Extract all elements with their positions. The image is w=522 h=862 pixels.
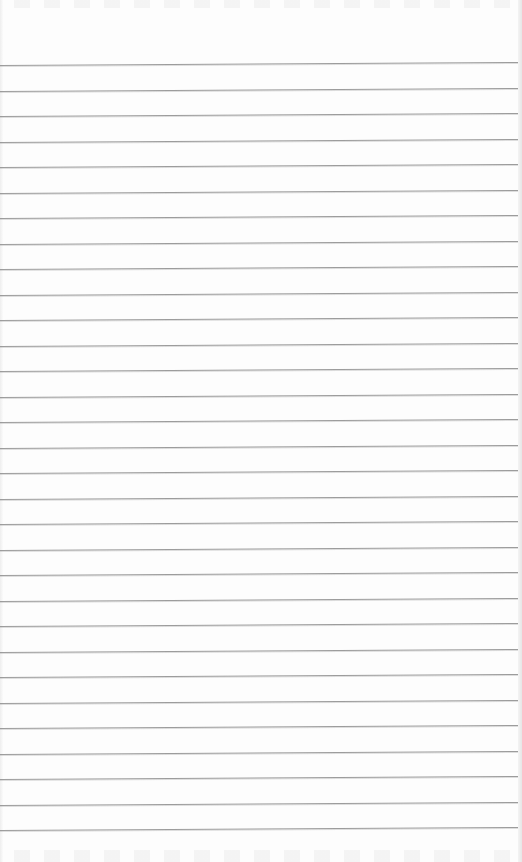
ruled-paper-sheet [0,0,522,862]
ruled-line [0,496,519,500]
ruled-line [0,649,519,653]
ruled-line [0,445,519,449]
ruled-line [0,725,519,729]
ruled-line [0,751,519,755]
ruled-line [0,88,519,92]
ruled-line [0,674,519,678]
ruled-line [0,113,519,117]
ruled-line [0,215,519,219]
ruled-line [0,419,519,423]
ruled-line [0,190,519,194]
ruled-line [0,572,519,576]
ruled-line [0,827,519,831]
ruled-line [0,343,519,347]
ruled-line [0,598,519,602]
ruled-line [0,266,519,270]
scan-ghost-bottom-margin [0,850,522,862]
ruled-line [0,623,519,627]
ruled-line [0,368,519,372]
ruled-line [0,62,519,66]
ruled-line [0,394,519,398]
ruled-line [0,241,519,245]
ruled-line [0,802,519,806]
ruled-line [0,470,519,474]
ruled-lines [0,0,522,862]
ruled-line [0,521,519,525]
ruled-line [0,700,519,704]
ruled-line [0,292,519,296]
ruled-line [0,776,519,780]
ruled-line [0,164,519,168]
ruled-line [0,139,519,143]
ruled-line [0,547,519,551]
paper-right-edge-shadow [518,0,522,862]
ruled-line [0,317,519,321]
